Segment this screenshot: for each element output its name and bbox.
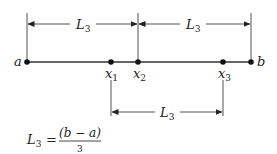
point-x2 [135,59,141,65]
point-x1 [108,59,114,65]
formula-denominator: 3 [77,144,83,154]
dimension-lower-label: L3 [159,105,175,122]
point-x3 [220,59,226,65]
point-b [248,59,254,65]
label-x2: x2 [133,66,146,83]
interval-diagram: L3 L3 L3 a b x1 x2 x3 L3 = (b − a) 3 [0,0,277,154]
formula-lhs: L3 [26,132,42,149]
diagram-svg: L3 L3 L3 a b x1 x2 x3 L3 = (b − a) 3 [0,0,277,154]
dimension-upper-right-label: L3 [185,17,201,34]
formula: L3 = (b − a) 3 [26,126,101,154]
formula-equals: = [46,132,57,147]
dimension-upper-left-label: L3 [75,17,91,34]
label-a: a [14,54,22,69]
label-x1: x1 [105,66,118,83]
label-x3: x3 [218,66,231,83]
label-b: b [257,54,265,69]
point-a [24,59,30,65]
formula-numerator: (b − a) [59,126,101,140]
